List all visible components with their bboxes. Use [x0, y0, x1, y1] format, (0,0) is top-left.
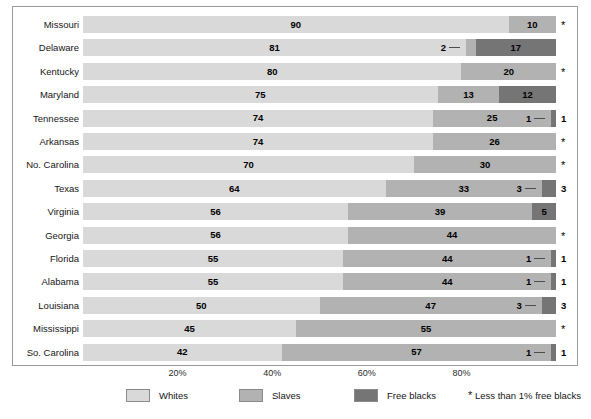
free-blacks-value-label: 1: [561, 250, 566, 267]
category-label: Kentucky: [13, 63, 79, 80]
low-free-blacks-marker: *: [561, 156, 565, 173]
stacked-bar: 64333: [83, 180, 556, 197]
x-axis-tick-labels: 20%40%60%80%: [0, 368, 591, 382]
bar-segment-free-blacks: 12: [499, 86, 556, 103]
value-leader-line: [525, 188, 536, 189]
bar-segment-whites: 74: [83, 133, 433, 150]
bar-row: No. Carolina7030*: [13, 156, 577, 173]
bar-rows: Missouri9010*Delaware81217Kentucky8020*M…: [13, 7, 577, 365]
stacked-bar: 7426: [83, 133, 556, 150]
segment-value: 2: [441, 39, 446, 56]
bar-segment-whites: 81: [83, 39, 466, 56]
legend-swatch: [354, 389, 378, 402]
segment-value: 5: [542, 207, 547, 217]
bar-row: Tennessee742511: [13, 110, 577, 127]
stacked-bar: 8020: [83, 63, 556, 80]
category-label: No. Carolina: [13, 156, 79, 173]
bar-segment-free-blacks: 1: [551, 110, 556, 127]
segment-value: 3: [517, 180, 522, 197]
low-free-blacks-marker: *: [561, 63, 565, 80]
category-label: Tennessee: [13, 110, 79, 127]
low-free-blacks-marker: *: [561, 133, 565, 150]
bar-row: Virginia563955: [13, 203, 577, 220]
bar-segment-slaves: 57: [282, 344, 552, 361]
value-leader-line: [534, 281, 545, 282]
value-leader-line: [534, 258, 545, 259]
bar-segment-slaves: 39: [348, 203, 532, 220]
stacked-bar: 56395: [83, 203, 556, 220]
low-free-blacks-marker: *: [561, 227, 565, 244]
bar-segment-whites: 90: [83, 16, 509, 33]
segment-value: 55: [421, 324, 432, 334]
segment-value: 50: [196, 301, 207, 311]
segment-value: 30: [480, 160, 491, 170]
segment-value: 12: [522, 90, 533, 100]
legend-footnote-text: Less than 1% free blacks: [472, 390, 581, 401]
bar-row: Arkansas7426*: [13, 133, 577, 150]
low-free-blacks-marker: *: [561, 16, 565, 33]
category-label: Georgia: [13, 227, 79, 244]
bar-segment-slaves: 26: [433, 133, 556, 150]
bar-segment-whites: 74: [83, 110, 433, 127]
category-label: Arkansas: [13, 133, 79, 150]
low-free-blacks-marker: *: [561, 320, 565, 337]
segment-value: 47: [425, 301, 436, 311]
bar-segment-slaves: 47: [320, 297, 542, 314]
bar-segment-free-blacks: 5: [532, 203, 556, 220]
bar-segment-whites: 45: [83, 320, 296, 337]
stacked-bar: 4555: [83, 320, 556, 337]
segment-value: 80: [267, 67, 278, 77]
legend-swatch: [126, 389, 150, 402]
x-tick-label: 40%: [263, 368, 281, 378]
value-leader-line: [534, 352, 545, 353]
bar-segment-whites: 42: [83, 344, 282, 361]
segment-value: 13: [463, 90, 474, 100]
bar-segment-whites: 80: [83, 63, 461, 80]
bar-row: Missouri9010*: [13, 16, 577, 33]
bar-segment-free-blacks: 1: [551, 344, 556, 361]
value-leader-line: [449, 47, 460, 48]
legend-item-slaves: Slaves: [239, 386, 301, 404]
stacked-bar: 5644: [83, 227, 556, 244]
bar-segment-whites: 56: [83, 227, 348, 244]
bar-row: Louisiana504733: [13, 297, 577, 314]
bar-row: So. Carolina425711: [13, 344, 577, 361]
stacked-bar: 55441: [83, 273, 556, 290]
category-label: Maryland: [13, 86, 79, 103]
segment-value: 55: [208, 254, 219, 264]
x-tick-label: 60%: [358, 368, 376, 378]
segment-value: 1: [526, 250, 531, 267]
category-label: Missouri: [13, 16, 79, 33]
segment-value: 39: [435, 207, 446, 217]
stacked-bar-chart: Missouri9010*Delaware81217Kentucky8020*M…: [0, 0, 591, 419]
bar-row: Kentucky8020*: [13, 63, 577, 80]
legend-item-free-blacks: Free blacks: [354, 386, 436, 404]
bar-row: Alabama554411: [13, 273, 577, 290]
bar-row: Mississippi4555*: [13, 320, 577, 337]
bar-segment-slaves: 13: [438, 86, 499, 103]
bar-segment-free-blacks: 3: [542, 180, 556, 197]
segment-value: 90: [291, 20, 302, 30]
bar-segment-slaves: 44: [343, 250, 551, 267]
segment-value: 44: [442, 277, 453, 287]
bar-segment-whites: 70: [83, 156, 414, 173]
segment-value: 1: [526, 273, 531, 290]
category-label: Mississippi: [13, 320, 79, 337]
category-label: Texas: [13, 180, 79, 197]
stacked-bar: 81217: [83, 39, 556, 56]
plot-area: Missouri9010*Delaware81217Kentucky8020*M…: [12, 6, 578, 366]
segment-value: 56: [210, 230, 221, 240]
legend-footnote: * Less than 1% free blacks: [468, 386, 581, 404]
segment-value: 17: [510, 43, 521, 53]
legend-item-whites: Whites: [126, 386, 188, 404]
bar-segment-slaves: 44: [348, 227, 556, 244]
bar-segment-free-blacks: 1: [551, 273, 556, 290]
value-leader-line: [534, 118, 545, 119]
segment-value: 3: [517, 297, 522, 314]
segment-value: 44: [442, 254, 453, 264]
chart-legend: WhitesSlavesFree blacks* Less than 1% fr…: [0, 386, 591, 408]
bar-row: Florida554411: [13, 250, 577, 267]
bar-segment-slaves: 44: [343, 273, 551, 290]
x-tick-label: 20%: [169, 368, 187, 378]
category-label: Florida: [13, 250, 79, 267]
